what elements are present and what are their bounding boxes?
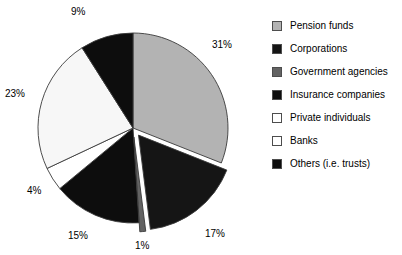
legend-item[interactable]: Corporations bbox=[272, 43, 402, 55]
pie-slice-group bbox=[38, 33, 228, 232]
pie-chart-area: 9% 31% 23% 4% 15% 1% 17% bbox=[0, 0, 250, 255]
pie-label-government-agencies: 1% bbox=[135, 240, 149, 251]
legend-item-label: Others (i.e. trusts) bbox=[290, 158, 370, 170]
legend-item[interactable]: Banks bbox=[272, 135, 402, 147]
legend-item-label: Banks bbox=[290, 135, 318, 147]
legend-item-label: Private individuals bbox=[290, 112, 371, 124]
pie-chart-page: 9% 31% 23% 4% 15% 1% 17% Pension fundsCo… bbox=[0, 0, 402, 255]
legend-swatch-icon bbox=[272, 44, 282, 54]
legend-swatch-icon bbox=[272, 159, 282, 169]
pie-label-corporations: 17% bbox=[205, 228, 225, 239]
pie-label-banks: 23% bbox=[5, 88, 25, 99]
legend-swatch-icon bbox=[272, 67, 282, 77]
legend-item[interactable]: Insurance companies bbox=[272, 89, 402, 101]
legend-item-label: Corporations bbox=[290, 43, 347, 55]
pie-label-insurance-companies: 15% bbox=[68, 230, 88, 241]
pie-label-private-individuals: 4% bbox=[27, 185, 41, 196]
legend-item[interactable]: Pension funds bbox=[272, 20, 402, 32]
legend-item[interactable]: Others (i.e. trusts) bbox=[272, 158, 402, 170]
pie-label-pension-funds: 31% bbox=[212, 39, 232, 50]
legend-swatch-icon bbox=[272, 113, 282, 123]
legend-item[interactable]: Government agencies bbox=[272, 66, 402, 78]
legend-swatch-icon bbox=[272, 21, 282, 31]
legend-item-label: Pension funds bbox=[290, 20, 353, 32]
legend-swatch-icon bbox=[272, 136, 282, 146]
legend-item-label: Insurance companies bbox=[290, 89, 385, 101]
pie-label-others: 9% bbox=[71, 6, 85, 17]
legend-item[interactable]: Private individuals bbox=[272, 112, 402, 124]
chart-legend: Pension fundsCorporationsGovernment agen… bbox=[272, 20, 402, 181]
legend-item-label: Government agencies bbox=[290, 66, 388, 78]
legend-swatch-icon bbox=[272, 90, 282, 100]
